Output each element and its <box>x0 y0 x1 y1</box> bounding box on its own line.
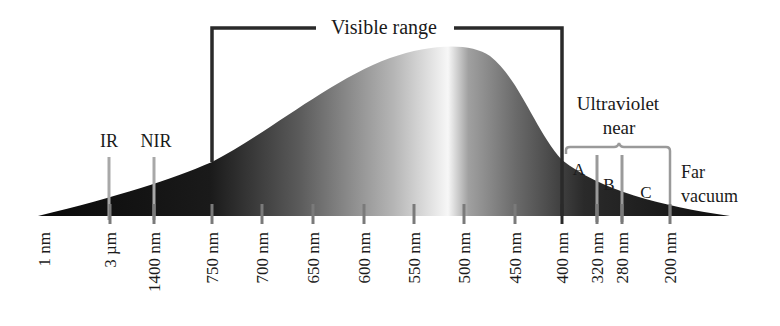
ultraviolet-label: Ultraviolet <box>577 93 660 114</box>
axis-tick-label: 700 nm <box>253 232 272 283</box>
axis-tick-label: 500 nm <box>455 232 474 283</box>
far-label: Far <box>681 162 705 182</box>
ir-label: IR <box>100 131 118 151</box>
axis-tick-label: 1400 nm <box>145 232 164 292</box>
axis-tick-label: 3 µm <box>101 232 120 268</box>
uv-c-label: C <box>640 183 651 202</box>
axis-tick-label: 750 nm <box>203 232 222 283</box>
visible-range-label: Visible range <box>331 16 437 39</box>
nir-label: NIR <box>141 131 172 151</box>
axis-tick-label: 1 nm <box>35 232 54 266</box>
axis-tick-label: 550 nm <box>405 232 424 283</box>
axis-tick-label: 200 nm <box>661 232 680 283</box>
axis-tick-label: 400 nm <box>553 232 572 283</box>
uv-near-label: near <box>603 117 636 138</box>
axis-tick-labels: 1 nm3 µm1400 nm750 nm700 nm650 nm600 nm5… <box>35 232 680 292</box>
axis-tick-label: 450 nm <box>506 232 525 283</box>
vacuum-label: vacuum <box>681 186 738 206</box>
axis-tick-label: 600 nm <box>355 232 374 283</box>
uv-b-label: B <box>603 175 614 194</box>
axis-tick-label: 650 nm <box>304 232 323 283</box>
axis-tick-label: 280 nm <box>613 232 632 283</box>
uv-a-label: A <box>573 160 586 179</box>
axis-tick-label: 320 nm <box>588 232 607 283</box>
em-spectrum-diagram: Visible range IR NIR Ultraviolet near A … <box>0 0 780 326</box>
